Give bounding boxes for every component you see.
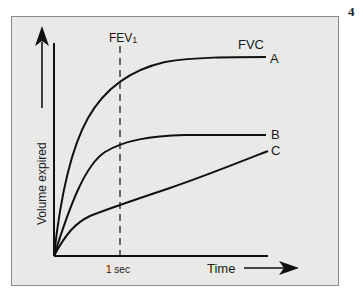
- curve-a: [54, 57, 266, 256]
- curve-c: [54, 151, 268, 256]
- curve-b-label: B: [271, 127, 280, 142]
- x-tick-1sec: 1 sec: [106, 264, 130, 275]
- x-axis-label: Time: [207, 261, 235, 276]
- spirometry-chart: FEV1 FVC A B C 1 sec Time Volume expired: [0, 0, 363, 295]
- fev1-label: FEV1: [109, 31, 137, 45]
- curve-c-label: C: [271, 143, 280, 158]
- fvc-label: FVC: [238, 37, 264, 52]
- y-axis-label: Volume expired: [35, 142, 49, 225]
- curve-b: [54, 135, 266, 256]
- curve-a-label: A: [270, 51, 279, 66]
